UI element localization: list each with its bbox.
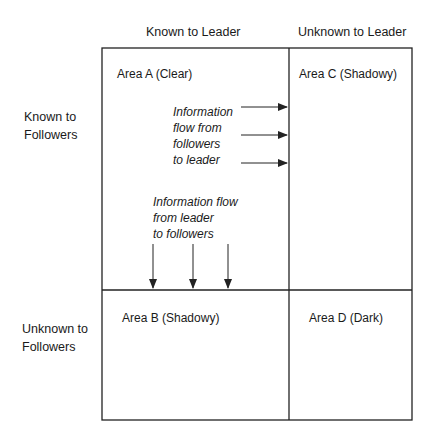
- row-header-line: Unknown to: [22, 320, 88, 338]
- caption-line: to leader: [173, 152, 233, 168]
- caption-line: from leader: [153, 210, 238, 226]
- row-header-unknown-to-followers: Unknown to Followers: [22, 320, 88, 356]
- caption-line: flow from: [173, 120, 233, 136]
- caption-line: followers: [173, 136, 233, 152]
- flow-leader-to-followers-caption: Information flow from leader to follower…: [153, 194, 238, 242]
- outer-border: [102, 48, 412, 420]
- row-header-line: Followers: [22, 338, 88, 356]
- row-header-known-to-followers: Known to Followers: [24, 108, 78, 144]
- area-d-label: Area D (Dark): [309, 311, 383, 325]
- row-header-line: Followers: [24, 126, 78, 144]
- caption-line: to followers: [153, 226, 238, 242]
- area-b-label: Area B (Shadowy): [122, 311, 219, 325]
- area-a-label: Area A (Clear): [117, 67, 192, 81]
- caption-line: Information flow: [153, 194, 238, 210]
- caption-line: Information: [173, 104, 233, 120]
- flow-followers-to-leader-caption: Information flow from followers to leade…: [173, 104, 233, 168]
- row-header-line: Known to: [24, 108, 78, 126]
- column-header-unknown-to-leader: Unknown to Leader: [298, 25, 406, 39]
- area-c-label: Area C (Shadowy): [299, 67, 397, 81]
- column-header-known-to-leader: Known to Leader: [146, 25, 241, 39]
